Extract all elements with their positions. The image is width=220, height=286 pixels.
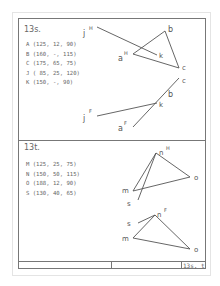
- top-view-13t: [133, 153, 190, 200]
- point-o-coords: O (188, 12, 90): [26, 180, 77, 186]
- point-c-coords: C (175, 65, 75): [26, 60, 77, 66]
- plane-abc-front-edge: [133, 78, 179, 127]
- line-jk-front: [97, 103, 157, 116]
- label-c-front: c: [182, 77, 186, 85]
- line-ns-top: [138, 153, 156, 200]
- label-b-front: b: [168, 90, 173, 99]
- label-o-top: o: [194, 174, 198, 182]
- plane-mno-front: [133, 215, 190, 249]
- label-j-top: j: [82, 29, 85, 38]
- plane-abc-top: [133, 31, 179, 68]
- point-m-coords: M (125, 25, 75): [26, 161, 77, 167]
- problem-13t: 13t. M (125, 25, 75) N (150, 50, 115) O …: [24, 143, 198, 254]
- point-b-coords: B (160, -, 115): [26, 51, 77, 57]
- point-s-coords: S (130, 40, 65): [26, 190, 77, 196]
- label-o-front: o: [194, 246, 198, 254]
- problem-13s-title: 13s.: [24, 25, 41, 34]
- problem-13s: 13s. A (125, 12, 90) B (160, -, 115) C (…: [24, 25, 186, 133]
- label-a-front-sup: F: [124, 120, 127, 126]
- drawing-sheet: 13s, t 13s. A (125, 12, 90) B (160, -, 1…: [0, 0, 220, 286]
- problem-13t-title: 13t.: [24, 143, 40, 152]
- label-j-front: j: [82, 114, 85, 123]
- line-ns-front: [138, 215, 155, 223]
- front-view-13s: [97, 78, 179, 127]
- point-j-coords: J ( 85, 25, 120): [26, 70, 80, 76]
- label-b-top: b: [168, 25, 173, 34]
- label-n-front-sup: F: [164, 207, 167, 213]
- point-n-coords: N (150, 50, 115): [26, 171, 80, 177]
- label-s-top: s: [127, 200, 131, 208]
- label-n-top-sup: H: [166, 145, 170, 151]
- plane-mno-top: [133, 153, 190, 191]
- label-k-front: k: [159, 101, 164, 109]
- label-m-top: m: [122, 187, 129, 195]
- label-a-top: a: [118, 54, 123, 63]
- label-m-front: m: [122, 235, 129, 243]
- label-j-top-sup: H: [89, 25, 93, 31]
- label-s-front: s: [127, 220, 131, 228]
- top-view-13s: [97, 27, 179, 68]
- point-k-coords: K (150, -, 90): [26, 79, 73, 85]
- sheet-number: 13s, t: [183, 262, 205, 269]
- label-c-top: c: [182, 64, 186, 72]
- point-a-coords: A (125, 12, 90): [26, 41, 77, 47]
- label-n-top: n: [159, 149, 163, 157]
- label-a-top-sup: H: [124, 50, 128, 56]
- label-a-front: a: [118, 124, 123, 133]
- label-n-front: n: [157, 211, 161, 219]
- label-k-top: k: [159, 52, 164, 60]
- label-j-front-sup: F: [89, 108, 92, 114]
- front-view-13t: [133, 215, 190, 249]
